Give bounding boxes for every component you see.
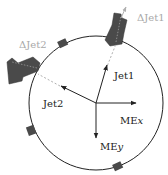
calorimeter-block-bottom xyxy=(112,161,123,171)
mex-label-prefix: ME xyxy=(120,115,138,126)
jet1-dashed-line xyxy=(106,44,116,69)
mex-label: MEx xyxy=(120,115,144,126)
mey-label-suffix: y xyxy=(117,141,124,152)
jet2-tower xyxy=(7,57,40,84)
mex-label-suffix: x xyxy=(138,115,144,126)
jet2-dashed-line xyxy=(38,74,60,86)
jet2-vector xyxy=(61,86,96,103)
calorimeter-block-left xyxy=(26,125,37,136)
met-jet-diagram: Jet1 Jet2 MEx MEy ΔJet1 ΔJet2 xyxy=(0,0,168,175)
delta-jet2-label: ΔJet2 xyxy=(19,39,47,50)
jet1-label: Jet1 xyxy=(113,70,134,81)
mey-label: MEy xyxy=(100,141,124,152)
mey-label-prefix: ME xyxy=(100,141,118,152)
delta-jet1-label: ΔJet1 xyxy=(137,12,165,23)
jet1-vector xyxy=(96,65,107,103)
jet2-label: Jet2 xyxy=(42,98,63,109)
delta-jet1-arrow xyxy=(121,7,126,18)
